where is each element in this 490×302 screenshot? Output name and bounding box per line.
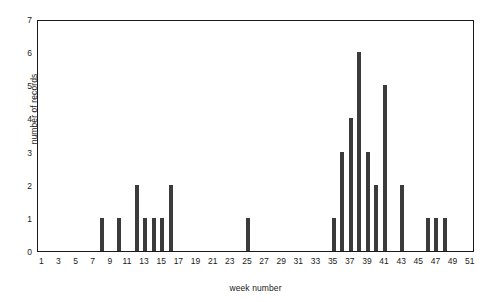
bar xyxy=(152,218,156,251)
bar xyxy=(117,218,121,251)
bar-chart: number of records 01234567 1357911131517… xyxy=(0,0,490,302)
x-axis-title: week number xyxy=(37,283,474,293)
bar xyxy=(400,185,404,251)
bar xyxy=(357,52,361,251)
y-tick-label: 5 xyxy=(12,82,32,91)
bar xyxy=(246,218,250,251)
y-tick-label: 7 xyxy=(12,16,32,25)
x-tick-label: 51 xyxy=(458,256,482,266)
bar xyxy=(169,185,173,251)
y-tick-label: 3 xyxy=(12,148,32,157)
bar xyxy=(443,218,447,251)
bar xyxy=(160,218,164,251)
y-tick-label: 2 xyxy=(12,181,32,190)
bar xyxy=(349,118,353,251)
bar xyxy=(434,218,438,251)
plot-area xyxy=(37,20,474,252)
y-tick-label: 6 xyxy=(12,49,32,58)
bar xyxy=(332,218,336,251)
bar xyxy=(135,185,139,251)
y-tick-label: 1 xyxy=(12,215,32,224)
bar xyxy=(340,152,344,251)
y-tick-label: 0 xyxy=(12,248,32,257)
y-axis-tick-labels: 01234567 xyxy=(12,20,32,252)
bar xyxy=(100,218,104,251)
bar xyxy=(383,85,387,251)
bar xyxy=(366,152,370,251)
x-axis-tick-labels: 1357911131517192123252729313335373941434… xyxy=(37,256,474,270)
bar xyxy=(143,218,147,251)
bar xyxy=(374,185,378,251)
y-tick-label: 4 xyxy=(12,115,32,124)
bar xyxy=(426,218,430,251)
